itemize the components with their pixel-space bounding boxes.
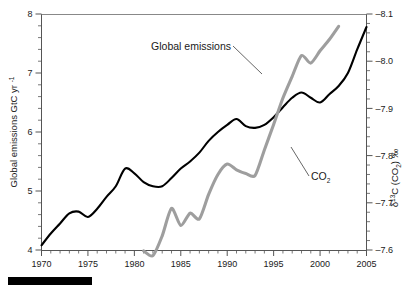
left-axis-tick-label: 7 (27, 68, 32, 78)
global-emissions-co2-chart: 45678 –7.6–7.7–7.8–7.9–8.0–8.1 197019751… (0, 0, 414, 291)
right-axis-tick-label: –7.6 (376, 245, 394, 255)
x-axis-tick-label: 1995 (264, 259, 284, 269)
x-axis-tick-label: 1970 (31, 259, 51, 269)
x-axis-tick-label: 1980 (124, 259, 144, 269)
global-emissions-label: Global emissions (151, 40, 231, 52)
left-axis-tick-label: 8 (27, 9, 32, 19)
left-axis-tick-label: 4 (27, 245, 32, 255)
left-axis-title: Global emissions GtC yr -1 (8, 76, 20, 187)
x-axis-tick-label: 1990 (217, 259, 237, 269)
x-axis-tick-label: 2000 (310, 259, 330, 269)
left-axis-tick-label: 6 (27, 127, 32, 137)
right-axis-tick-label: –7.9 (376, 104, 394, 114)
right-axis-tick-label: –8.1 (376, 9, 394, 19)
left-axis-tick-label: 5 (27, 186, 32, 196)
black-scale-bar (8, 277, 92, 285)
x-axis-tick-label: 2005 (356, 259, 376, 269)
chart-figure: 45678 –7.6–7.7–7.8–7.9–8.0–8.1 197019751… (0, 0, 414, 291)
x-axis-tick-label: 1975 (78, 259, 98, 269)
right-axis-tick-label: –8.0 (376, 56, 394, 66)
x-axis-tick-label: 1985 (171, 259, 191, 269)
